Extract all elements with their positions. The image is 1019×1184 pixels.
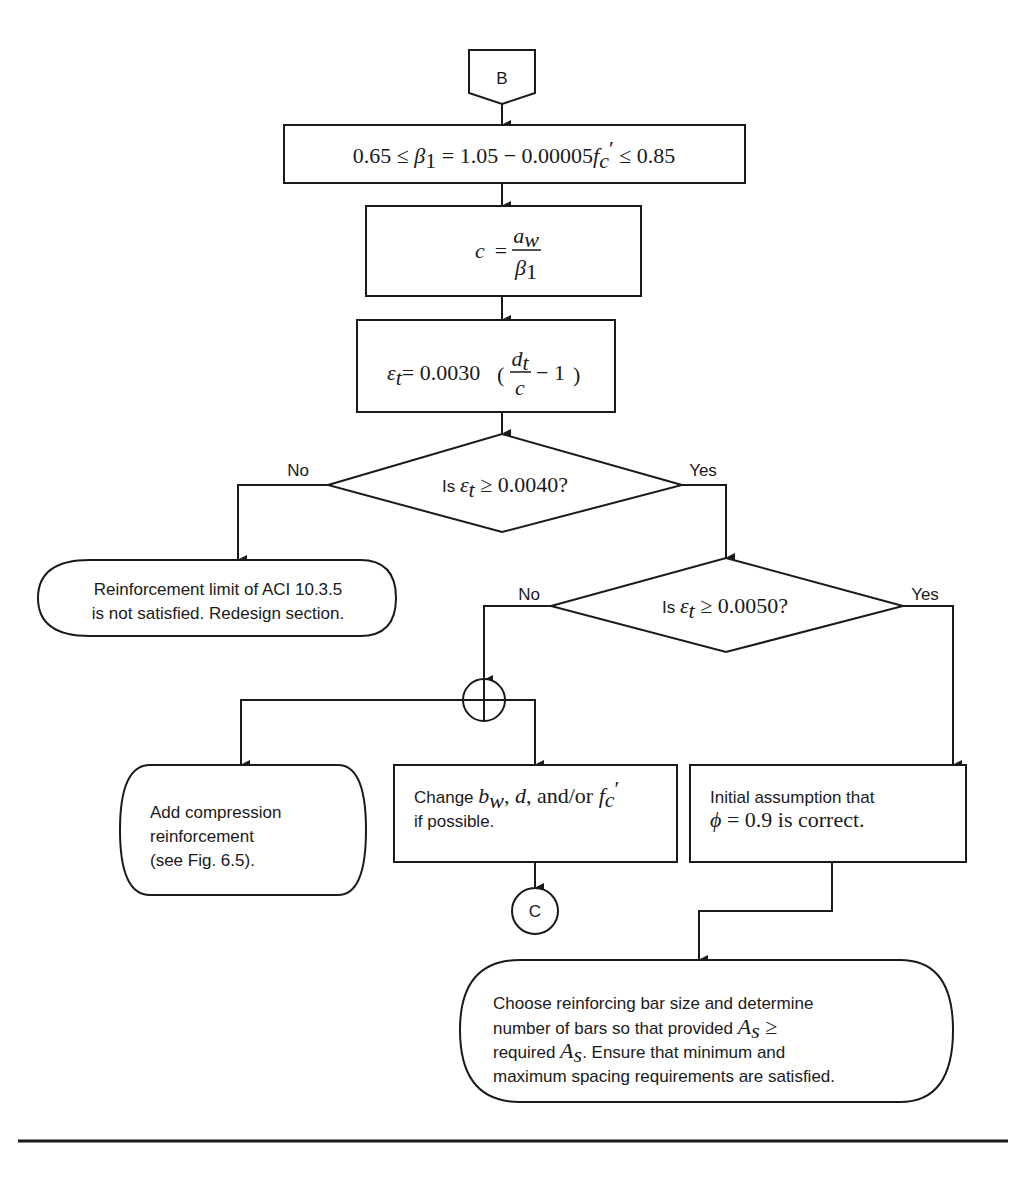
terminal-choose-bars: Choose reinforcing bar size and determin… [460,960,953,1102]
decision-1-no-label: No [287,461,309,480]
compression-line-2: reinforcement [150,827,254,846]
redesign-line-2: is not satisfied. Redesign section. [92,604,344,623]
change-dims-line-2: if possible. [414,812,494,831]
connector-b: B [469,50,535,104]
compression-line-3: (see Fig. 6.5). [150,851,255,870]
arrow-to-compression [241,700,463,765]
strain-tail: − 1 [536,360,565,385]
flowchart: B 0.65 ≤ β1 = 1.05 − 0.00005fc′ ≤ 0.85 c… [0,0,1019,1184]
phi-line-1: Initial assumption that [710,788,875,807]
arrow-yes-1 [682,485,726,558]
connector-c: C [512,888,558,934]
phi-line-2: ϕ = 0.9 is correct. [710,807,865,832]
arrow-no-2 [484,606,551,680]
c-equation-numerator: aw [513,223,539,252]
decision-2-no-label: No [518,585,540,604]
strain-denominator: c [515,375,525,400]
or-junction-icon [463,679,505,721]
choose-bars-line-4: maximum spacing requirements are satisfi… [493,1067,835,1086]
decision-strain-0050: Is εt ≥ 0.0050? [551,558,903,652]
arrow-yes-2 [903,606,953,765]
open-paren: ( [497,362,504,387]
beta1-process-box: 0.65 ≤ β1 = 1.05 − 0.00005fc′ ≤ 0.85 [284,125,745,183]
close-paren: ) [573,362,580,387]
arrow-to-change-dims [505,700,535,765]
change-dimensions-process-box: Change bw, d, and/or fc′ if possible. [394,765,677,862]
neutral-axis-process-box: c = aw β1 [366,206,641,296]
decision-1-yes-label: Yes [689,461,717,480]
choose-bars-line-1: Choose reinforcing bar size and determin… [493,994,813,1013]
arrow-to-choose-bars [699,862,832,960]
terminal-redesign: Reinforcement limit of ACI 10.3.5 is not… [38,560,396,636]
strain-process-box: εt= 0.0030 ( dt c − 1 ) [357,320,615,412]
phi-assumption-process-box: Initial assumption that ϕ = 0.9 is corre… [690,765,966,862]
c-equation-eq: = [495,238,507,263]
compression-line-1: Add compression [150,803,281,822]
connector-b-label: B [496,69,507,88]
redesign-line-1: Reinforcement limit of ACI 10.3.5 [94,580,343,599]
strain-numerator: dt [511,346,529,375]
decision-strain-0040: Is εt ≥ 0.0040? [328,434,682,532]
arrow-no-1 [238,485,328,560]
connector-c-label: C [529,902,541,921]
decision-2-yes-label: Yes [911,585,939,604]
terminal-add-compression: Add compression reinforcement (see Fig. … [120,765,366,895]
c-equation-denominator: β1 [514,255,537,284]
c-equation-lhs: c [475,238,485,263]
